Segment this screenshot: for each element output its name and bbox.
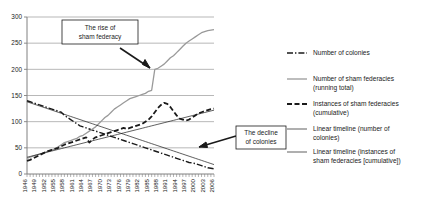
x-tick-label: 1949 xyxy=(30,178,37,192)
x-tick-label: 1982 xyxy=(133,178,140,192)
rise-callout-line2: sham federacy xyxy=(79,33,122,41)
x-tick-label: 2003 xyxy=(199,178,206,192)
legend: Number of coloniesNumber of sham federac… xyxy=(287,49,401,165)
x-tick-label: 1973 xyxy=(105,178,112,192)
legend-label-0: Number of colonies xyxy=(313,49,371,56)
x-tick-label: 1985 xyxy=(143,178,150,192)
x-tick-label: 1979 xyxy=(124,178,131,192)
legend-label-4-line2: sham federacies [cumulative]) xyxy=(313,157,401,165)
x-tick-label: 1961 xyxy=(68,178,75,192)
y-tick-label: 0 xyxy=(18,170,22,177)
x-tick-label: 1967 xyxy=(86,178,93,192)
x-tick-label: 1997 xyxy=(180,178,187,192)
rise-callout-line1: The rise of xyxy=(85,24,116,31)
decline-arrow-head xyxy=(199,142,208,148)
rise-arrow-head xyxy=(143,60,151,69)
y-tick-label: 150 xyxy=(11,92,22,99)
series-line-3 xyxy=(27,102,214,165)
x-tick-label: 1952 xyxy=(40,178,47,192)
x-tick-label: 1946 xyxy=(21,178,28,192)
x-tick-label: 1994 xyxy=(171,178,178,192)
y-tick-label: 250 xyxy=(11,39,22,46)
x-tick-label: 1991 xyxy=(161,178,168,192)
x-tick-label: 2000 xyxy=(189,178,196,192)
legend-label-3: Linear timeline (number of xyxy=(313,125,390,133)
decline-callout-line2: of colonies xyxy=(245,138,277,145)
legend-label-1-line2: (running total) xyxy=(313,84,354,92)
x-tick-label: 1976 xyxy=(115,178,122,192)
chart-svg: 0501001502002503001946194919521955195819… xyxy=(0,0,437,218)
x-tick-label: 1964 xyxy=(77,178,84,192)
legend-label-2-line2: (cumulative) xyxy=(313,109,349,117)
x-tick-label: 2006 xyxy=(208,178,215,192)
y-tick-label: 100 xyxy=(11,118,22,125)
legend-label-4: Linear timeline (instances of xyxy=(313,148,395,156)
x-axis: 1946194919521955195819611964196719701973… xyxy=(21,174,215,193)
legend-label-2: Instances of sham federacies xyxy=(313,100,399,107)
x-tick-label: 1955 xyxy=(49,178,56,192)
legend-label-1: Number of sham federacies xyxy=(313,75,395,82)
x-tick-label: 1958 xyxy=(58,178,65,192)
legend-label-3-line2: colonies) xyxy=(313,134,339,142)
x-tick-label: 1970 xyxy=(96,178,103,192)
y-tick-label: 300 xyxy=(11,13,22,20)
annotations: The rise ofsham federacyThe declineof co… xyxy=(62,20,286,149)
x-tick-label: 1988 xyxy=(152,178,159,192)
decline-callout-line1: The decline xyxy=(244,129,278,136)
series-line-4 xyxy=(27,110,214,157)
chart-figure: 0501001502002503001946194919521955195819… xyxy=(0,0,437,218)
y-tick-label: 200 xyxy=(11,66,22,73)
y-axis: 050100150200250300 xyxy=(11,13,27,177)
y-tick-label: 50 xyxy=(15,144,23,151)
